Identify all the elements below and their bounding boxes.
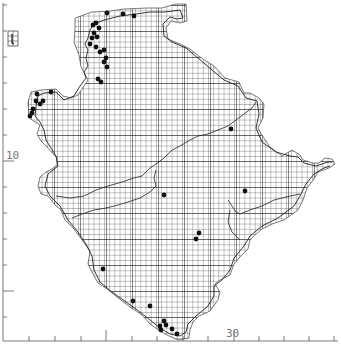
record-dot — [92, 31, 97, 36]
record-dot — [158, 324, 163, 329]
record-dot — [102, 48, 107, 53]
record-dot — [194, 237, 199, 242]
tetrad-grid — [0, 0, 341, 348]
record-dot — [88, 42, 93, 47]
record-dot — [105, 11, 110, 16]
record-dot — [90, 36, 95, 41]
record-dot — [121, 12, 126, 17]
record-dot — [175, 332, 180, 337]
record-dot — [34, 99, 39, 104]
record-dot — [102, 60, 107, 65]
record-dot — [164, 323, 169, 328]
record-dot — [35, 92, 40, 97]
record-dot — [99, 80, 104, 85]
record-dot — [95, 35, 100, 40]
record-dot — [41, 99, 46, 104]
record-dot — [94, 45, 99, 50]
record-dot — [105, 65, 110, 70]
record-dot — [131, 299, 136, 304]
record-dot — [170, 327, 175, 332]
record-dot — [49, 90, 54, 95]
record-dot — [162, 193, 167, 198]
distribution-map: 10 30 — [0, 0, 341, 348]
record-dot — [31, 107, 36, 112]
record-dot — [101, 267, 106, 272]
record-dot — [148, 304, 153, 309]
record-dot — [243, 189, 248, 194]
record-dot — [197, 231, 202, 236]
record-dot — [132, 14, 137, 19]
record-dot — [91, 23, 96, 28]
record-dot — [159, 328, 164, 333]
record-dot — [97, 26, 102, 31]
left-axis-label: 10 — [6, 149, 19, 162]
record-dot — [28, 114, 33, 119]
record-dot — [229, 127, 234, 132]
lundy-inset — [8, 31, 18, 46]
bottom-axis-label: 30 — [226, 327, 239, 340]
